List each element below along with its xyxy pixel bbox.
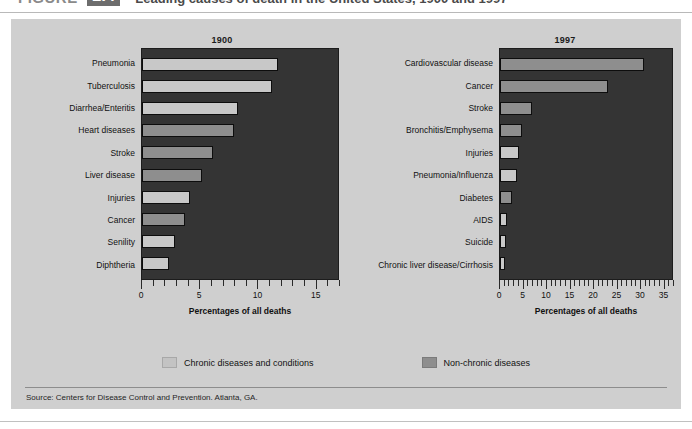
category-label: AIDS — [351, 215, 499, 225]
axis-major-tick — [316, 280, 317, 289]
axis-tick-label: 10 — [541, 290, 550, 300]
chart-1900-title: 1900 — [19, 35, 339, 45]
axis-tick-label: 35 — [659, 290, 668, 300]
bar — [500, 102, 532, 115]
bar-row — [500, 58, 672, 71]
axis-major-tick — [257, 280, 258, 289]
chart-1997-category-labels: Cardiovascular diseaseCancerStrokeBronch… — [351, 48, 499, 280]
axis-tick-label: 10 — [253, 290, 262, 300]
axis-minor-tick — [565, 280, 566, 286]
bar-row — [500, 146, 672, 159]
bar-row — [500, 213, 672, 226]
axis-major-tick — [570, 280, 571, 289]
bar — [142, 102, 238, 115]
axis-minor-tick — [281, 280, 282, 286]
chart-1900: 1900 PneumoniaTuberculosisDiarrhea/Enter… — [19, 35, 339, 316]
chart-1997-xlabel: Percentages of all deaths — [499, 306, 673, 316]
bar — [500, 191, 512, 204]
category-label: Senility — [19, 237, 141, 247]
axis-minor-tick — [304, 280, 305, 286]
axis-minor-tick — [588, 280, 589, 286]
axis-major-tick — [546, 280, 547, 289]
category-label: Suicide — [351, 237, 499, 247]
axis-minor-tick — [668, 280, 669, 286]
axis-minor-tick — [188, 280, 189, 286]
axis-minor-tick — [612, 280, 613, 286]
category-label: Heart diseases — [19, 125, 141, 135]
legend-swatch-icon — [422, 357, 437, 368]
axis-minor-tick — [234, 280, 235, 286]
axis-minor-tick — [654, 280, 655, 286]
axis-minor-tick — [673, 280, 674, 286]
bar — [142, 146, 213, 159]
bar — [142, 124, 234, 137]
chart-1900-axis-ticklabels: 051015 — [141, 290, 339, 302]
axis-tick-label: 5 — [520, 290, 525, 300]
figure-label: FIGURE — [18, 0, 78, 6]
axis-minor-tick — [339, 280, 340, 286]
axis-minor-tick — [584, 280, 585, 286]
axis-minor-tick — [164, 280, 165, 286]
axis-minor-tick — [513, 280, 514, 286]
bar-row — [142, 257, 338, 270]
axis-minor-tick — [626, 280, 627, 286]
legend-item: Chronic diseases and conditions — [162, 357, 314, 368]
bar-row — [142, 102, 338, 115]
axis-tick-label: 5 — [197, 290, 202, 300]
axis-left-spacer — [19, 280, 141, 316]
chart-1900-axis-ticks — [141, 280, 339, 289]
category-label: Pneumonia/Influenza — [351, 170, 499, 180]
axis-minor-tick — [555, 280, 556, 286]
axis-minor-tick — [551, 280, 552, 286]
header-divider — [0, 12, 692, 13]
axis-minor-tick — [607, 280, 608, 286]
category-label: Pneumonia — [19, 58, 141, 68]
axis-minor-tick — [649, 280, 650, 286]
bar — [142, 235, 175, 248]
figure-panel: 1900 PneumoniaTuberculosisDiarrhea/Enter… — [11, 19, 681, 409]
chart-1900-plot-area — [141, 48, 339, 280]
chart-1900-category-labels: PneumoniaTuberculosisDiarrhea/EnteritisH… — [19, 48, 141, 280]
axis-major-tick — [664, 280, 665, 289]
category-label: Liver disease — [19, 170, 141, 180]
axis-tick-label: 0 — [497, 290, 502, 300]
category-label: Bronchitis/Emphysema — [351, 125, 499, 135]
bar — [142, 169, 202, 182]
axis-major-tick — [523, 280, 524, 289]
axis-major-tick — [617, 280, 618, 289]
chart-1997: 1997 Cardiovascular diseaseCancerStrokeB… — [351, 35, 673, 316]
axis-minor-tick — [574, 280, 575, 286]
axis-minor-tick — [598, 280, 599, 286]
category-label: Injuries — [19, 193, 141, 203]
axis-minor-tick — [579, 280, 580, 286]
source-divider — [25, 387, 667, 388]
bar — [500, 146, 519, 159]
category-label: Diphtheria — [19, 260, 141, 270]
axis-tick-label: 30 — [635, 290, 644, 300]
axis-minor-tick — [635, 280, 636, 286]
bar — [142, 191, 190, 204]
axis-minor-tick — [537, 280, 538, 286]
bar-row — [142, 124, 338, 137]
category-label: Stroke — [19, 148, 141, 158]
chart-1997-plot-area — [499, 48, 673, 280]
axis-minor-tick — [631, 280, 632, 286]
axis-minor-tick — [176, 280, 177, 286]
axis-minor-tick — [292, 280, 293, 286]
category-label: Injuries — [351, 148, 499, 158]
axis-minor-tick — [211, 280, 212, 286]
axis-minor-tick — [327, 280, 328, 286]
bar — [500, 257, 505, 270]
axis-minor-tick — [527, 280, 528, 286]
bar-row — [142, 213, 338, 226]
chart-1997-axis-ticklabels: 05101520253035 — [499, 290, 673, 302]
bar — [142, 80, 272, 93]
chart-1997-title: 1997 — [351, 35, 673, 45]
category-label: Cancer — [351, 81, 499, 91]
bar-row — [500, 257, 672, 270]
axis-major-tick — [640, 280, 641, 289]
axis-minor-tick — [560, 280, 561, 286]
bar — [142, 58, 278, 71]
legend-label: Chronic diseases and conditions — [184, 358, 314, 368]
axis-tick-label: 0 — [139, 290, 144, 300]
